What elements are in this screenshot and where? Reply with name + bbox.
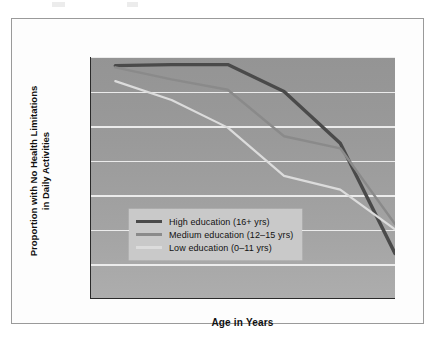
scan-artifact-right (127, 2, 138, 7)
series-lines (91, 57, 395, 298)
x-axis-title: Age in Years (90, 317, 395, 328)
legend-label: High education (16+ yrs) (169, 217, 270, 227)
legend-swatch (136, 233, 162, 236)
x-axis-tick (285, 298, 286, 299)
legend-swatch (136, 220, 162, 223)
legend-label: Low education (0–11 yrs) (169, 243, 272, 253)
x-axis-tick (341, 298, 342, 299)
x-axis-tick (172, 298, 173, 299)
plot-area: 1.00.90.80.70.60.50.40.3 304050607085 Hi… (90, 57, 395, 299)
legend-label: Medium education (12–15 yrs) (169, 230, 293, 240)
legend-item: Low education (0–11 yrs) (136, 241, 293, 254)
scan-artifact-left (52, 2, 65, 7)
legend-swatch (136, 246, 162, 249)
series-line (115, 81, 395, 229)
chart-legend: High education (16+ yrs)Medium education… (129, 209, 302, 260)
y-axis-title-line2: in Daily Activities (40, 132, 51, 210)
x-axis-tick (228, 298, 229, 299)
y-axis-title: Proportion with No Health Limitations in… (28, 50, 52, 292)
legend-item: Medium education (12–15 yrs) (136, 228, 293, 241)
figure-frame: Proportion with No Health Limitations in… (11, 18, 424, 324)
series-line (115, 67, 395, 224)
y-axis-title-line1: Proportion with No Health Limitations (28, 86, 39, 256)
legend-item: High education (16+ yrs) (136, 215, 293, 228)
x-axis-tick (115, 298, 116, 299)
